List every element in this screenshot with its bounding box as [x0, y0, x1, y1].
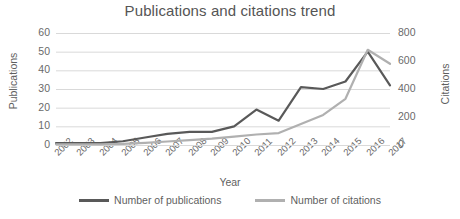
legend-color-swatch [79, 199, 109, 202]
plot-area [0, 0, 460, 219]
series-lines [56, 50, 390, 145]
chart-container: Publications and citations trend Publica… [0, 0, 460, 219]
legend-color-swatch [255, 199, 285, 202]
legend-item[interactable]: Number of citations [255, 194, 380, 206]
series-line [56, 52, 390, 143]
legend-label: Number of publications [114, 194, 221, 206]
legend-label: Number of citations [290, 194, 380, 206]
chart-legend: Number of publicationsNumber of citation… [0, 194, 460, 206]
legend-item[interactable]: Number of publications [79, 194, 221, 206]
